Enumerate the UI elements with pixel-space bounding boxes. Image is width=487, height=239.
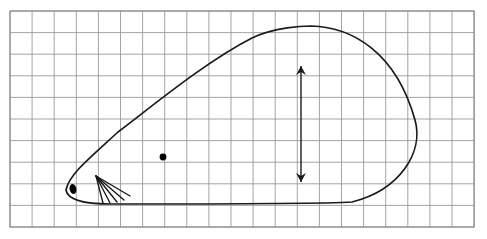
geometry-diagram <box>0 0 487 239</box>
figure-canvas <box>0 0 487 239</box>
center-point-marker <box>160 154 167 161</box>
